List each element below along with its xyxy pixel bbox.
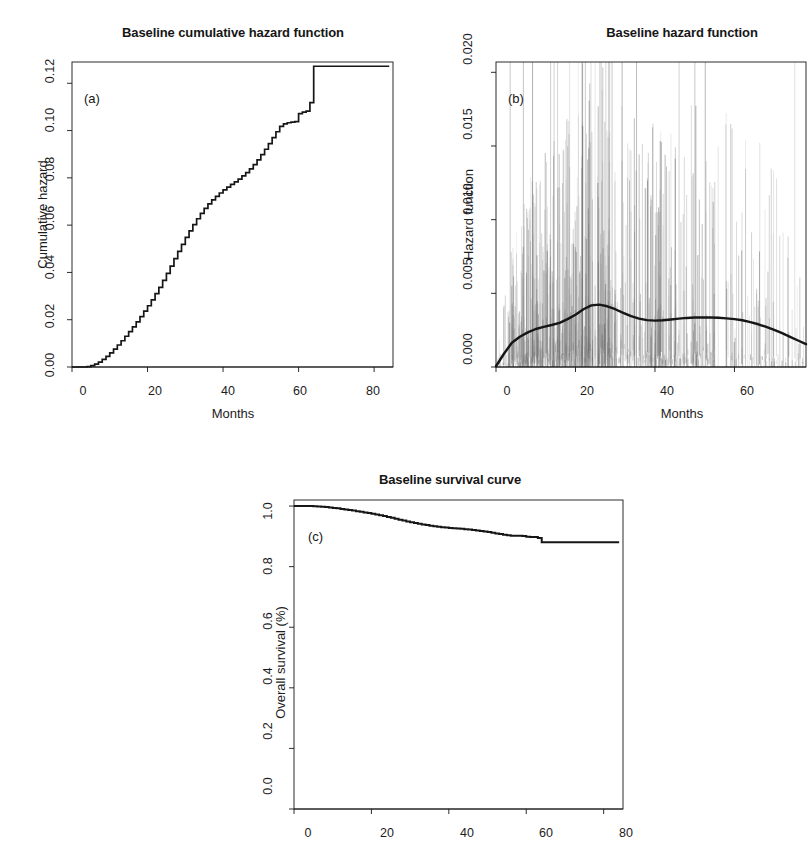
panel-cumulative-hazard: Baseline cumulative hazard function Cumu…: [0, 0, 420, 440]
panel-b-plot-area: [420, 0, 798, 440]
panel-a-plot-area: [0, 0, 420, 440]
panel-hazard-function: Baseline hazard function Hazard function…: [420, 0, 798, 440]
panel-survival-curve: Baseline survival curve Overall survival…: [230, 440, 680, 842]
panel-c-plot-area: [230, 440, 680, 842]
